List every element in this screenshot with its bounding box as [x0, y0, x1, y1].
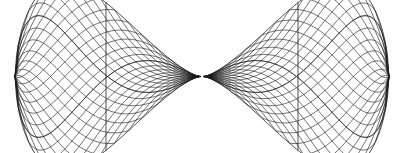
figure-canvas [0, 0, 404, 153]
double-lens-grid-figure [0, 0, 404, 153]
